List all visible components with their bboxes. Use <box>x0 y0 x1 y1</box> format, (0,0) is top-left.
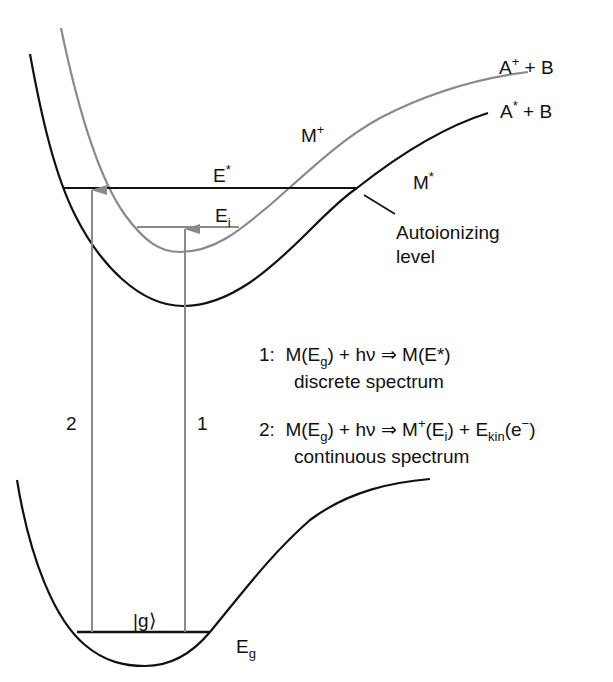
e-g-label: Eg <box>236 637 256 656</box>
e-star-label: E* <box>213 166 231 185</box>
ion-potential-curve <box>61 28 528 252</box>
autoionizing-pointer-line <box>364 195 395 214</box>
equation-2: 2: M(Eg) + hν ⇒ M+(Ei) + Ekin(e−) <box>259 420 536 439</box>
equation-1: 1: M(Eg) + hν ⇒ M(E*) <box>259 345 451 364</box>
ion-asymptote-label: A+ + B <box>499 58 554 77</box>
ion-curve-label: M+ <box>301 126 324 145</box>
ground-state-potential-curve <box>17 479 430 666</box>
arrow-2-label: 2 <box>66 414 77 433</box>
equation-2-caption: continuous spectrum <box>294 447 469 466</box>
arrow-1-label: 1 <box>197 414 208 433</box>
e-i-label: Ei <box>215 206 231 225</box>
autoionizing-label: Autoionizing level <box>396 221 500 269</box>
ground-state-label: |g⟩ <box>133 611 156 630</box>
excited-asymptote-label: A* + B <box>500 102 552 121</box>
equation-1-caption: discrete spectrum <box>294 372 444 391</box>
excited-curve-label: M* <box>413 173 434 192</box>
